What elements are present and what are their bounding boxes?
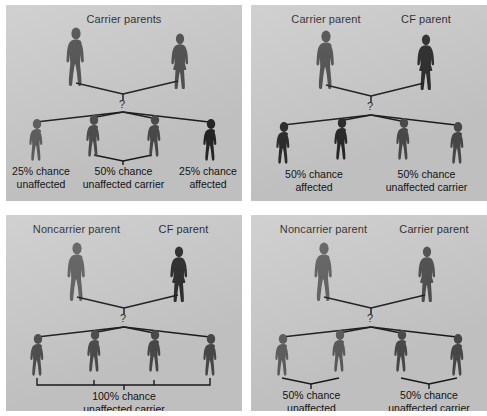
child-figure-affected bbox=[329, 118, 355, 161]
outcome-percent: 100% chance bbox=[6, 390, 242, 403]
outcome-phenotype: affected bbox=[173, 178, 242, 191]
child-figure-carrier bbox=[82, 330, 108, 373]
outcome-label: 50% chance unaffected carrier bbox=[67, 165, 180, 190]
child-figure-carrier bbox=[81, 115, 107, 158]
outcome-percent: 50% chance bbox=[259, 168, 369, 181]
outcome-label: 50% chance affected bbox=[259, 168, 369, 193]
outcome-percent: 25% chance bbox=[173, 165, 242, 178]
child-figure-unaffected bbox=[24, 119, 50, 162]
child-figure-carrier bbox=[445, 122, 471, 165]
child-figure-carrier bbox=[389, 330, 415, 373]
outcome-phenotype: unaffected carrier bbox=[67, 178, 180, 191]
child-figure-carrier bbox=[198, 334, 224, 377]
outcome-label: 100% chance unaffected carrier bbox=[6, 390, 242, 411]
panel-carrier-x-cf: Carrier parent CF parent bbox=[251, 5, 487, 201]
outcome-percent: 50% chance bbox=[67, 165, 180, 178]
outcome-percent: 50% chance bbox=[369, 168, 484, 181]
outcome-label: 25% chance affected bbox=[173, 165, 242, 190]
child-figure-carrier bbox=[445, 334, 471, 377]
outcome-percent: 50% chance bbox=[371, 389, 487, 402]
outcome-phenotype: unaffected carrier bbox=[6, 403, 242, 412]
outcome-phenotype: affected bbox=[259, 181, 369, 194]
panel-noncarrier-x-carrier: Noncarrier parent Carrier parent bbox=[251, 215, 487, 411]
outcome-percent: 50% chance bbox=[254, 389, 369, 402]
outcome-label: 25% chance unaffected bbox=[6, 165, 76, 190]
outcome-phenotype: unaffected bbox=[254, 402, 369, 412]
outcome-phenotype: unaffected carrier bbox=[369, 181, 484, 194]
child-figure-unaffected bbox=[327, 330, 353, 373]
unknown-marker: ? bbox=[367, 101, 373, 112]
outcome-percent: 25% chance bbox=[6, 165, 76, 178]
unknown-marker: ? bbox=[119, 99, 125, 110]
child-figure-carrier bbox=[142, 115, 168, 158]
unknown-marker: ? bbox=[120, 313, 126, 324]
child-figure-carrier bbox=[142, 330, 168, 373]
outcome-phenotype: unaffected carrier bbox=[371, 402, 487, 412]
outcome-phenotype: unaffected bbox=[6, 178, 76, 191]
child-figure-carrier bbox=[391, 118, 417, 161]
outcome-label: 50% chance unaffected carrier bbox=[369, 168, 484, 193]
child-figure-unaffected bbox=[270, 334, 296, 377]
child-figure-affected bbox=[271, 122, 297, 165]
panel-noncarrier-x-cf: Noncarrier parent CF parent bbox=[6, 215, 242, 411]
panel-carrier-x-carrier: Carrier parents bbox=[6, 5, 242, 201]
outcome-label: 50% chance unaffected bbox=[254, 389, 369, 411]
child-figure-carrier bbox=[25, 334, 51, 377]
child-figure-affected bbox=[198, 119, 224, 162]
unknown-marker: ? bbox=[367, 313, 373, 324]
outcome-label: 50% chance unaffected carrier bbox=[371, 389, 487, 411]
